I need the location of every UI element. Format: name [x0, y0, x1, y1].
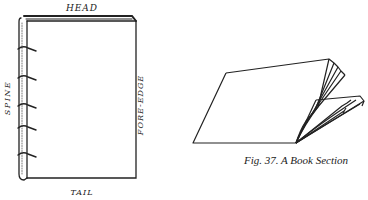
label-tail: TAIL [70, 188, 93, 197]
book-diagram: HEAD TAIL SPINE FORE-EDGE Fig. 37. A Boo… [0, 0, 368, 200]
label-spine: SPINE [3, 81, 12, 115]
label-head: HEAD [65, 3, 98, 13]
book-section-figure [193, 59, 364, 143]
figure-caption: Fig. 37. A Book Section [243, 154, 349, 166]
label-fore-edge: FORE-EDGE [136, 75, 145, 136]
book-anatomy-figure [18, 16, 136, 180]
